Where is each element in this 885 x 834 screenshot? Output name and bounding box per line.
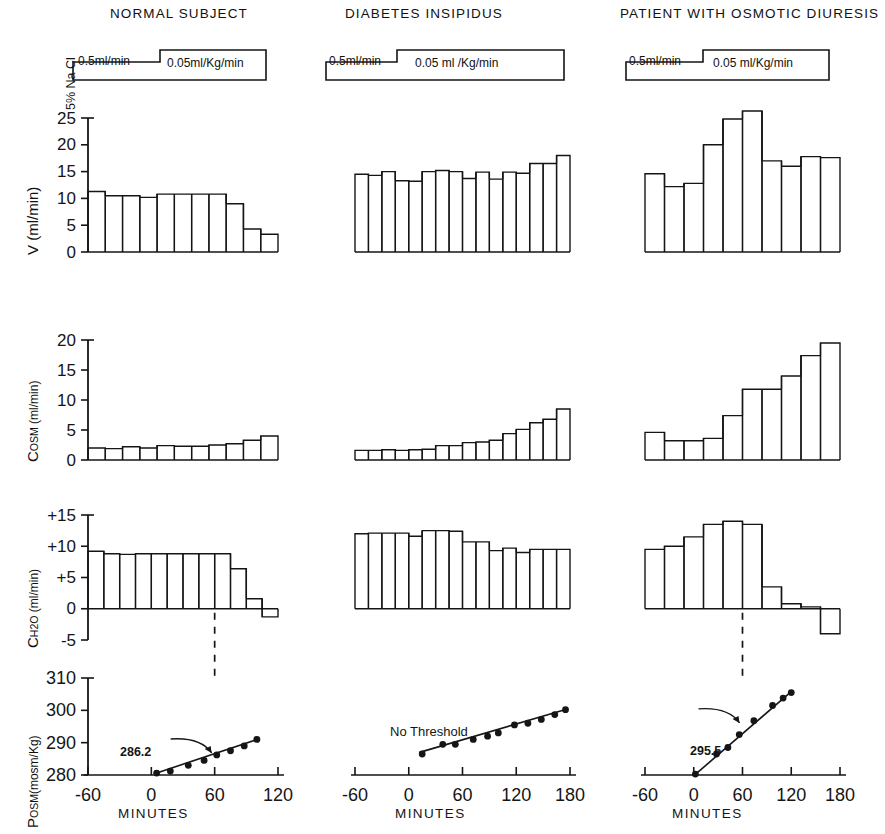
svg-text:+10: +10 [47,537,76,556]
svg-text:120: 120 [776,785,806,805]
svg-text:20: 20 [57,135,76,154]
svg-text:5: 5 [67,216,76,235]
svg-text:+5: +5 [57,568,76,587]
svg-text:20: 20 [57,331,76,350]
svg-text:0: 0 [404,785,414,805]
plots-svg: 051015202505101520-50+5+10+15-6006012028… [0,0,885,834]
svg-text:180: 180 [555,785,585,805]
svg-text:15: 15 [57,361,76,380]
svg-text:-5: -5 [61,631,76,650]
xaxis-caption-normal: MINUTES [118,806,189,821]
svg-text:0: 0 [67,599,76,618]
svg-text:15: 15 [57,162,76,181]
svg-text:+15: +15 [47,506,76,525]
svg-text:60: 60 [732,785,752,805]
svg-text:5: 5 [67,421,76,440]
svg-text:120: 120 [263,785,293,805]
svg-text:180: 180 [825,785,855,805]
svg-text:290: 290 [46,733,76,753]
svg-text:0: 0 [67,451,76,470]
xaxis-caption-osmotic: MINUTES [672,806,743,821]
svg-text:-60: -60 [632,785,658,805]
svg-text:-60: -60 [342,785,368,805]
svg-text:0: 0 [146,785,156,805]
svg-text:10: 10 [57,189,76,208]
svg-text:-60: -60 [75,785,101,805]
svg-text:10: 10 [57,391,76,410]
svg-text:280: 280 [46,765,76,785]
svg-text:25: 25 [57,109,76,128]
svg-text:300: 300 [46,700,76,720]
svg-text:0: 0 [67,243,76,262]
svg-text:310: 310 [46,668,76,688]
annotation-di-threshold: No Threshold [390,724,468,739]
xaxis-caption-di: MINUTES [395,806,466,821]
svg-text:120: 120 [501,785,531,805]
annotation-osmotic-threshold: 295.5 [690,744,721,758]
svg-text:0: 0 [689,785,699,805]
svg-text:60: 60 [205,785,225,805]
figure-canvas: NORMAL SUBJECT DIABETES INSIPIDUS PATIEN… [0,0,885,834]
annotation-normal-threshold: 286.2 [120,745,151,759]
svg-text:60: 60 [452,785,472,805]
